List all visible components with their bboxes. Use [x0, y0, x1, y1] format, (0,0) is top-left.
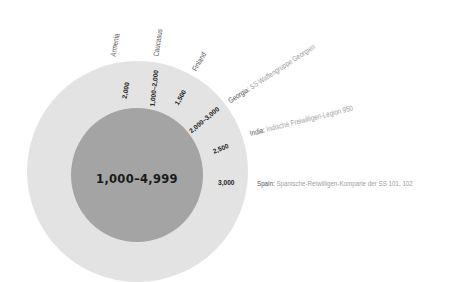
value-spain: 3,000	[218, 179, 235, 186]
country-georgia: Georgia:	[227, 85, 252, 106]
country-india: India:	[249, 125, 266, 137]
unit-india: Indische Freiwilligen-Legion 950	[265, 104, 354, 134]
label-georgia: Georgia: SS Waffengruppe Georgien	[227, 42, 317, 105]
label-caucasus: Caucasus	[152, 28, 165, 57]
center-total-label: 1,000–4,999	[96, 172, 178, 186]
unit-georgia: SS Waffengruppe Georgien	[248, 42, 317, 91]
label-india: India: Indische Freiwilligen-Legion 950	[249, 104, 354, 138]
label-finland: Finland	[190, 51, 208, 73]
country-spain: Spain:	[257, 179, 275, 188]
label-armenia: Armenia	[109, 33, 122, 57]
label-spain: Spain: Spanische-Reiwilligen-Komparie de…	[257, 179, 413, 188]
unit-spain: Spanische-Reiwilligen-Komparie der SS 10…	[276, 179, 412, 188]
